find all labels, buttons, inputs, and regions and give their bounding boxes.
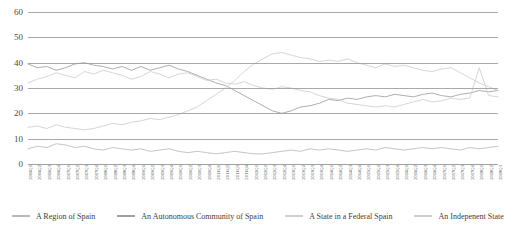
x-axis-tick-label: 2006Q3: [47, 165, 52, 180]
line-chart: 0102030405060 2006Q12006Q22006Q32006Q420…: [0, 0, 509, 231]
x-axis-tick-label: 2016Q2: [413, 165, 418, 180]
x-axis-tick-label: 2007Q2: [75, 165, 80, 180]
legend-item[interactable]: An Autonomous Community of Spain: [117, 212, 263, 221]
x-axis-tick-label: 2015Q4: [395, 165, 400, 180]
x-axis-tick-label: 2010Q3: [197, 165, 202, 180]
x-axis-tick-label: 2012Q3: [272, 165, 277, 180]
y-axis-tick-label: 0: [19, 160, 24, 169]
y-axis-tick-label: 40: [14, 58, 23, 67]
y-axis: 0102030405060: [0, 12, 28, 164]
series-line: [28, 53, 498, 130]
x-axis-tick-label: 2007Q1: [66, 165, 71, 180]
legend-label: A Region of Spain: [36, 212, 95, 221]
legend-line-swatch: [117, 215, 135, 216]
x-axis-tick-label: 2014Q3: [348, 165, 353, 180]
x-axis-tick-label: 2008Q3: [122, 165, 127, 180]
y-axis-tick-label: 50: [14, 33, 23, 42]
x-axis-tick-label: 2010Q1: [178, 165, 183, 180]
legend-label: An Indepenent State: [438, 212, 503, 221]
x-axis-tick-label: 2017Q2: [451, 165, 456, 180]
legend-line-swatch: [12, 215, 30, 216]
legend-item[interactable]: A State in a Federal Spain: [285, 212, 392, 221]
x-axis-tick-label: 2018Q2: [489, 165, 494, 180]
x-axis-tick-label: 2014Q4: [357, 165, 362, 180]
x-axis-tick-label: 2013Q2: [301, 165, 306, 180]
x-axis-tick-label: 2013Q3: [310, 165, 315, 180]
x-axis-tick-label: 2015Q2: [376, 165, 381, 180]
y-axis-tick-label: 20: [14, 109, 23, 118]
y-axis-tick-label: 10: [14, 134, 23, 143]
legend-label: A State in a Federal Spain: [309, 212, 392, 221]
x-axis-tick-label: 2018Q3: [498, 165, 503, 180]
x-axis-tick-label: 2010Q2: [188, 165, 193, 180]
x-axis-tick-label: 2013Q1: [291, 165, 296, 180]
x-axis-tick-label: 2009Q3: [160, 165, 165, 180]
gridline: [28, 63, 498, 64]
x-axis-tick-label: 2011Q3: [235, 165, 240, 180]
plot-area: [28, 12, 498, 164]
x-axis-tick-label: 2006Q1: [28, 165, 33, 180]
x-axis-tick-label: 2011Q4: [244, 165, 249, 180]
y-axis-tick-label: 30: [14, 84, 23, 93]
y-axis-tick-label: 60: [14, 8, 23, 17]
x-axis-tick-label: 2018Q1: [479, 165, 484, 180]
gridline: [28, 37, 498, 38]
x-axis-tick-label: 2006Q4: [56, 165, 61, 180]
x-axis-tick-label: 2014Q1: [329, 165, 334, 180]
x-axis-tick-label: 2012Q1: [254, 165, 259, 180]
legend-line-swatch: [414, 215, 432, 216]
legend-item[interactable]: An Indepenent State: [414, 212, 503, 221]
x-axis-tick-label: 2017Q3: [460, 165, 465, 180]
x-axis-tick-label: 2015Q3: [385, 165, 390, 180]
x-axis-tick-label: 2017Q1: [442, 165, 447, 180]
x-axis: 2006Q12006Q22006Q32006Q42007Q12007Q22007…: [28, 165, 498, 205]
x-axis-tick-label: 2016Q1: [404, 165, 409, 180]
x-axis-tick-label: 2013Q4: [319, 165, 324, 180]
x-axis-tick-label: 2006Q2: [37, 165, 42, 180]
x-axis-tick-label: 2007Q4: [94, 165, 99, 180]
gridline: [28, 88, 498, 89]
x-axis-tick-label: 2008Q4: [131, 165, 136, 180]
gridline: [28, 113, 498, 114]
x-axis-tick-label: 2009Q2: [150, 165, 155, 180]
chart-legend: A Region of SpainAn Autonomous Community…: [0, 206, 509, 226]
x-axis-tick-label: 2011Q2: [225, 165, 230, 180]
x-axis-tick-label: 2012Q2: [263, 165, 268, 180]
x-axis-tick-label: 2011Q1: [216, 165, 221, 180]
legend-label: An Autonomous Community of Spain: [141, 212, 263, 221]
x-axis-tick-label: 2014Q2: [338, 165, 343, 180]
x-axis-tick-label: 2010Q4: [207, 165, 212, 180]
x-axis-tick-label: 2015Q1: [366, 165, 371, 180]
x-axis-tick-label: 2008Q2: [113, 165, 118, 180]
x-axis-tick-label: 2008Q1: [103, 165, 108, 180]
gridline: [28, 139, 498, 140]
series-line: [28, 144, 498, 154]
x-axis-tick-label: 2009Q1: [141, 165, 146, 180]
x-axis-tick-label: 2016Q4: [432, 165, 437, 180]
gridline: [28, 12, 498, 13]
legend-line-swatch: [285, 215, 303, 216]
x-axis-tick-label: 2007Q3: [84, 165, 89, 180]
x-axis-tick-label: 2016Q3: [423, 165, 428, 180]
x-axis-tick-label: 2017Q4: [470, 165, 475, 180]
x-axis-tick-label: 2012Q4: [282, 165, 287, 180]
x-axis-tick-label: 2009Q4: [169, 165, 174, 180]
legend-item[interactable]: A Region of Spain: [12, 212, 95, 221]
